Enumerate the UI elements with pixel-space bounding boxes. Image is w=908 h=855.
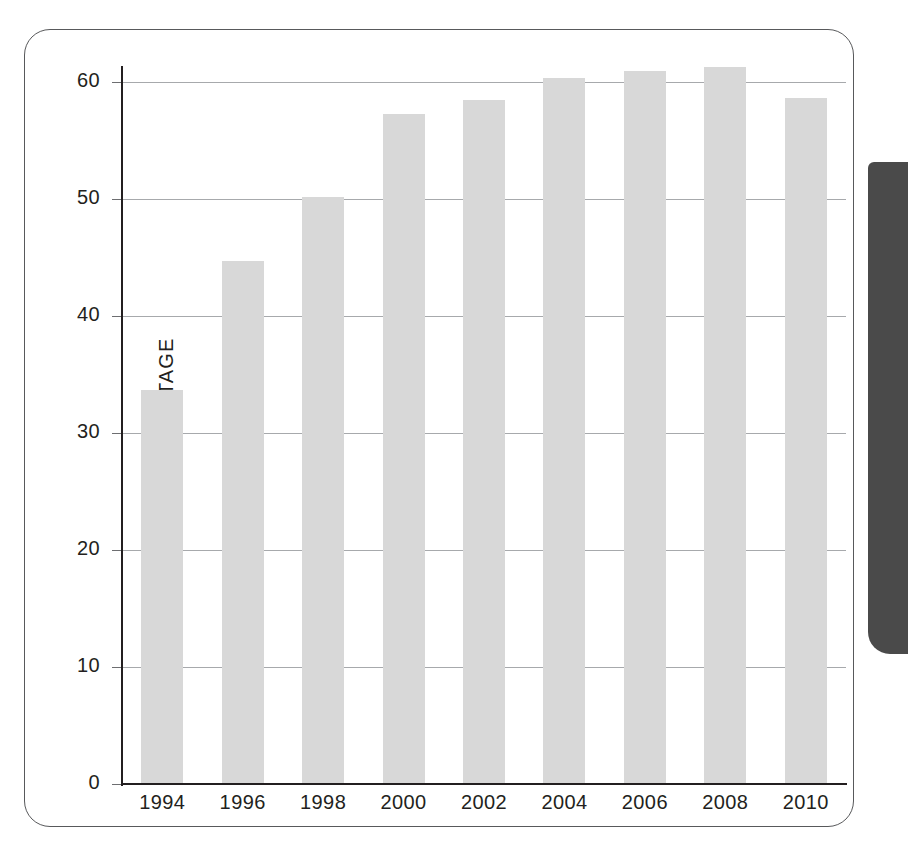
y-tick-label: 30 — [40, 420, 100, 443]
y-tick-label: 20 — [40, 537, 100, 560]
x-tick-label: 1996 — [203, 791, 283, 814]
x-tick-label: 2006 — [605, 791, 685, 814]
bar — [141, 390, 183, 784]
y-tick-label: 50 — [40, 186, 100, 209]
bar — [463, 100, 505, 784]
x-tick-label: 2010 — [766, 791, 846, 814]
y-tick-label: 10 — [40, 654, 100, 677]
y-tick-label: 0 — [40, 771, 100, 794]
bar — [704, 67, 746, 784]
bar — [543, 78, 585, 784]
bar — [624, 71, 666, 784]
x-tick-label: 2008 — [685, 791, 765, 814]
y-tick-label: 40 — [40, 303, 100, 326]
y-axis-line — [121, 66, 123, 786]
x-tick-label: 2000 — [364, 791, 444, 814]
bar — [383, 114, 425, 784]
x-tick-label: 1994 — [122, 791, 202, 814]
bar — [222, 261, 264, 784]
y-tick-label: 60 — [40, 69, 100, 92]
x-tick-label: 2004 — [524, 791, 604, 814]
bar — [302, 197, 344, 784]
bar — [785, 98, 827, 784]
x-tick-label: 2002 — [444, 791, 524, 814]
x-tick-label: 1998 — [283, 791, 363, 814]
x-axis-line — [121, 783, 847, 785]
